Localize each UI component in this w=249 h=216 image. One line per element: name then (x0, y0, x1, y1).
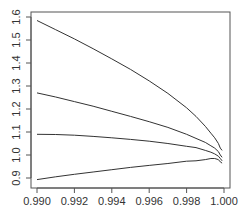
chart-canvas: 0.9900.9920.9940.9960.9981.000 0.91.01.1… (0, 0, 249, 216)
x-axis: 0.9900.9920.9940.9960.9981.000 (23, 188, 238, 207)
y-tick-label: 1.5 (10, 32, 22, 47)
y-tick-label: 1.3 (10, 78, 22, 93)
y-tick-label: 1.6 (10, 9, 22, 24)
x-tick-label: 0.992 (61, 195, 89, 207)
plot-frame (31, 12, 230, 188)
y-axis: 0.91.01.11.21.31.41.51.6 (10, 9, 31, 185)
x-tick-label: 0.996 (135, 195, 163, 207)
data-lines (37, 21, 222, 180)
y-tick-label: 1.1 (10, 124, 22, 139)
series-line-curve-1 (37, 21, 222, 151)
x-tick-label: 0.990 (23, 195, 51, 207)
x-tick-label: 0.998 (173, 195, 201, 207)
series-line-curve-3 (37, 134, 222, 161)
y-tick-label: 1.0 (10, 147, 22, 162)
x-tick-label: 0.994 (98, 195, 126, 207)
y-tick-label: 1.2 (10, 101, 22, 116)
y-tick-label: 0.9 (10, 170, 22, 185)
y-tick-label: 1.4 (10, 55, 22, 70)
series-line-curve-4 (37, 159, 222, 180)
x-tick-label: 1.000 (210, 195, 238, 207)
line-chart: 0.9900.9920.9940.9960.9981.000 0.91.01.1… (0, 0, 249, 216)
